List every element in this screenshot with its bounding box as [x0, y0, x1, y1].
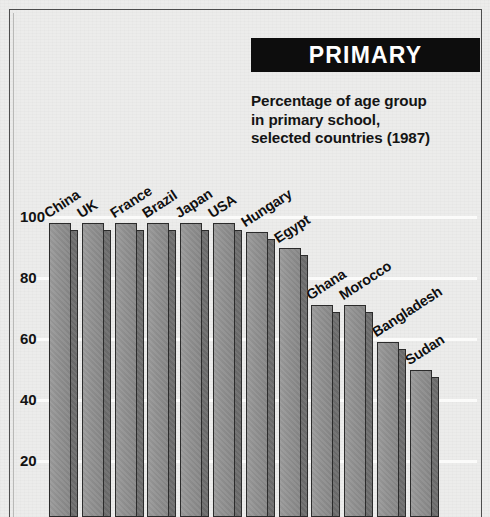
- bar-side-uk: [103, 230, 111, 517]
- bar-morocco: [344, 305, 366, 517]
- bar-sudan: [410, 370, 432, 517]
- bar-side-ghana: [332, 312, 340, 517]
- bar-china: [49, 223, 71, 517]
- bar-side-hungary: [267, 239, 275, 517]
- bar-side-brazil: [168, 230, 176, 517]
- bar-hungary: [246, 232, 268, 517]
- bar-brazil: [147, 223, 169, 517]
- chart-figure: PRIMARY Percentage of age group in prima…: [0, 0, 490, 517]
- bar-side-japan: [201, 230, 209, 517]
- bar-uk: [82, 223, 104, 517]
- bar-ghana: [311, 305, 333, 517]
- bar-side-china: [70, 230, 78, 517]
- category-label-bangladesh: Bangladesh: [369, 283, 444, 340]
- plot-area: 10080604020ChinaUKFranceBrazilJapanUSAHu…: [0, 0, 490, 517]
- bar-france: [115, 223, 137, 517]
- bar-usa: [213, 223, 235, 517]
- bar-side-france: [136, 230, 144, 517]
- bar-japan: [180, 223, 202, 517]
- bar-side-usa: [234, 230, 242, 517]
- bar-side-sudan: [431, 377, 439, 517]
- bar-side-morocco: [365, 312, 373, 517]
- category-label-sudan: Sudan: [402, 331, 447, 368]
- bar-side-bangladesh: [398, 349, 406, 517]
- bar-egypt: [279, 248, 301, 517]
- bar-bangladesh: [377, 342, 399, 517]
